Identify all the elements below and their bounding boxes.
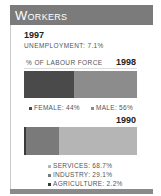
sector-year: 1990 (116, 115, 136, 125)
female-swatch (29, 107, 32, 110)
panel-footer (10, 189, 153, 194)
legend-male: MALE: 56% (91, 104, 133, 111)
panel-header: Workers (10, 5, 153, 25)
male-swatch (91, 107, 94, 110)
services-label: SERVICES: 68.7% (53, 162, 112, 169)
labour-force-label: % OF LABOUR FORCE (26, 59, 103, 66)
separator (24, 68, 137, 69)
agriculture-swatch (48, 183, 51, 186)
legend-agriculture: AGRICULTURE: 2.2% (48, 180, 123, 187)
legend-services: SERVICES: 68.7% (48, 162, 112, 169)
agriculture-label: AGRICULTURE: 2.2% (53, 180, 123, 187)
industry-label: INDUSTRY: 29.1% (53, 171, 112, 178)
legend-industry: INDUSTRY: 29.1% (48, 171, 112, 178)
legend-female: FEMALE: 44% (29, 104, 80, 111)
services-swatch (48, 165, 51, 168)
female-label: FEMALE: 44% (34, 104, 80, 111)
gender-year: 1998 (116, 57, 136, 67)
unemployment-year: 1997 (24, 30, 44, 40)
panel-title: Workers (15, 8, 67, 23)
male-segment (74, 71, 137, 98)
gender-bar (24, 71, 137, 98)
industry-swatch (48, 174, 51, 177)
male-label: MALE: 56% (96, 104, 133, 111)
industry-segment (26, 127, 59, 155)
services-segment (59, 127, 137, 155)
female-segment (24, 71, 74, 98)
sector-bar (24, 127, 137, 155)
unemployment-label: UNEMPLOYMENT: 7.1% (24, 42, 104, 49)
